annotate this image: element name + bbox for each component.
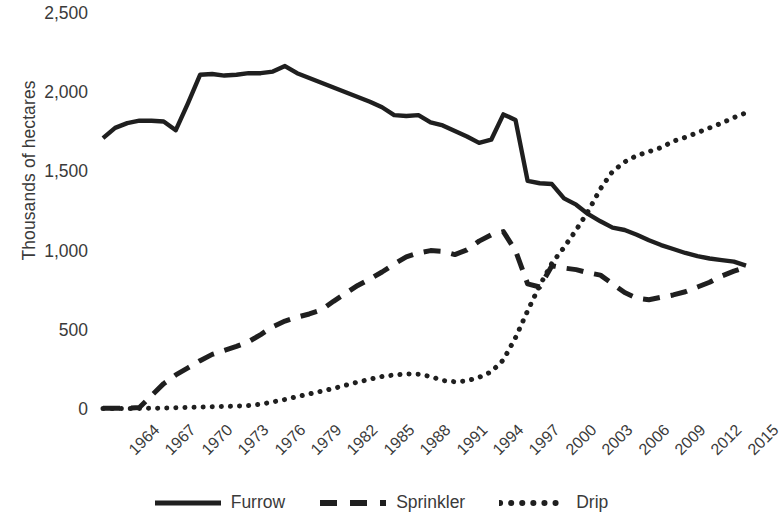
series-line-sprinkler [103, 232, 746, 409]
y-axis-tick-label: 2,000 [14, 82, 88, 103]
legend-swatch-solid [154, 497, 222, 509]
x-axis-tick-label: 2009 [671, 421, 709, 459]
x-axis-tick-label: 1997 [526, 421, 564, 459]
x-axis-tick-label: 1994 [489, 421, 527, 459]
legend-swatch-dotted [499, 497, 567, 509]
legend-swatch-dashed [319, 497, 387, 509]
y-axis-tick-label: 2,500 [14, 3, 88, 24]
legend-label: Drip [576, 492, 608, 513]
x-axis-tick-label: 1979 [307, 421, 345, 459]
series-line-furrow [103, 66, 746, 266]
y-axis-tick-labels: 2,5002,0001,5001,0005000 [14, 0, 88, 523]
x-axis-tick-label: 1976 [271, 421, 309, 459]
y-axis-tick-label: 0 [14, 399, 88, 420]
x-axis-tick-label: 1991 [453, 421, 491, 459]
x-axis-tick-label: 2000 [562, 421, 600, 459]
x-axis-tick-label: 1988 [417, 421, 455, 459]
series-line-drip [103, 113, 746, 409]
legend-label: Sprinkler [396, 492, 465, 513]
y-axis-tick-label: 1,500 [14, 161, 88, 182]
chart-legend: FurrowSprinklerDrip [0, 492, 762, 513]
x-axis-tick-label: 2006 [635, 421, 673, 459]
x-axis-tick-label: 1985 [380, 421, 418, 459]
x-axis-tick-label: 1967 [162, 421, 200, 459]
legend-item-sprinkler[interactable]: Sprinkler [319, 492, 465, 513]
x-axis-tick-label: 1964 [125, 421, 163, 459]
y-axis-tick-label: 1,000 [14, 240, 88, 261]
legend-item-furrow[interactable]: Furrow [154, 492, 285, 513]
plot-svg [95, 8, 760, 412]
x-axis-tick-label: 2015 [744, 421, 782, 459]
x-axis-tick-label: 1973 [235, 421, 273, 459]
x-axis-tick-label: 1982 [344, 421, 382, 459]
x-axis-tick-label: 2003 [599, 421, 637, 459]
legend-item-drip[interactable]: Drip [499, 492, 608, 513]
x-axis-tick-label: 1970 [198, 421, 236, 459]
y-axis-tick-label: 500 [14, 319, 88, 340]
x-axis-tick-label: 2012 [708, 421, 746, 459]
legend-label: Furrow [231, 492, 285, 513]
plot-area [95, 8, 760, 412]
